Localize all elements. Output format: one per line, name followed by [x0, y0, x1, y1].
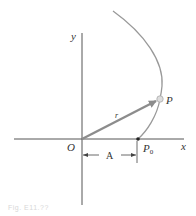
point-p0-label: P0 [142, 142, 154, 156]
point-p [157, 96, 163, 102]
origin-label: O [67, 141, 75, 153]
y-axis-label: y [70, 30, 76, 42]
point-p0 [136, 137, 140, 141]
position-vector-r [82, 101, 156, 139]
dimension-a-label: A [106, 150, 114, 161]
point-p0-label-subscript: 0 [150, 148, 154, 156]
point-p-label: P [165, 94, 173, 106]
figure-caption: Fig. E11.?? [8, 204, 49, 211]
diagram: y x O P P0 r A [0, 0, 196, 216]
x-axis-label: x [180, 140, 186, 152]
vector-r-label: r [115, 111, 119, 120]
